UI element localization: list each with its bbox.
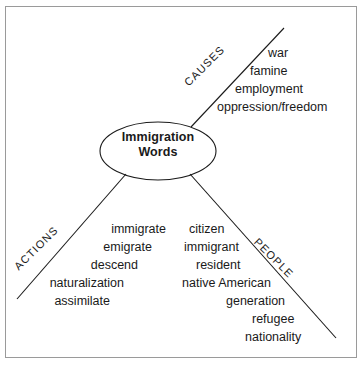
center-topic-line1: Immigration	[100, 130, 216, 145]
people-word-4: generation	[226, 295, 285, 308]
center-topic: Immigration Words	[100, 130, 216, 160]
actions-word-1: emigrate	[0, 241, 152, 254]
causes-word-0: war	[268, 47, 288, 60]
people-word-1: immigrant	[184, 241, 239, 254]
people-word-5: refugee	[252, 313, 294, 326]
actions-word-2: descend	[0, 259, 138, 272]
people-word-6: nationality	[245, 331, 301, 344]
people-word-2: resident	[196, 259, 240, 272]
center-topic-line2: Words	[100, 145, 216, 160]
causes-word-1: famine	[250, 65, 288, 78]
actions-word-4: assimilate	[0, 295, 110, 308]
causes-word-3: oppression/freedom	[217, 101, 327, 114]
people-word-3: native American	[182, 277, 271, 290]
actions-word-0: immigrate	[0, 223, 166, 236]
causes-word-2: employment	[235, 83, 303, 96]
people-word-0: citizen	[189, 223, 224, 236]
actions-word-3: naturalization	[0, 277, 124, 290]
diagram-canvas: Immigration Words CAUSES ACTIONS PEOPLE …	[0, 0, 364, 372]
